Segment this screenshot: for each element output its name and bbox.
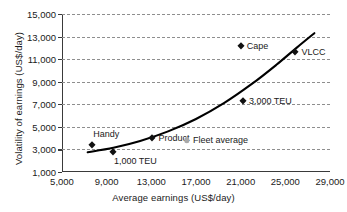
y-tick-mark (58, 82, 62, 83)
data-point-label: 1,000 TEU (114, 156, 157, 166)
y-tick-mark (58, 172, 62, 173)
y-tick-mark (58, 59, 62, 60)
data-point-label: Handy (93, 129, 119, 139)
y-tick-mark (58, 37, 62, 38)
y-tick-label: 13,000 (27, 31, 56, 42)
data-point-marker (237, 42, 244, 49)
y-tick-label: 3,000 (32, 144, 56, 155)
gridline (62, 149, 330, 150)
y-axis-line (62, 14, 63, 172)
y-tick-mark (58, 127, 62, 128)
x-axis-title: Average earnings (US$/day) (0, 192, 347, 203)
gridline (62, 82, 330, 83)
x-axis-line (62, 171, 330, 172)
data-point-label: VLCC (301, 47, 325, 57)
data-point-marker (292, 49, 299, 56)
plot-area: 1,0003,0005,0007,0009,00011,00013,00015,… (62, 14, 330, 172)
y-tick-mark (58, 14, 62, 15)
data-point-label: 3,000 TEU (249, 96, 292, 106)
x-tick-label: 13,000 (137, 176, 166, 187)
data-point-marker (88, 141, 95, 148)
y-tick-label: 11,000 (28, 54, 56, 65)
gridline (62, 59, 330, 60)
y-tick-label: 7,000 (32, 99, 56, 110)
trendline (62, 14, 330, 172)
y-tick-mark (58, 149, 62, 150)
x-tick-label: 25,000 (271, 176, 300, 187)
y-tick-label: 15,000 (27, 9, 56, 20)
trendline-path (88, 33, 315, 152)
chart-figure: Volatility of earnings (US$/day) Average… (0, 0, 347, 212)
data-point-label: Fleet average (193, 135, 248, 145)
gridline (62, 127, 330, 128)
y-axis-title: Volatility of earnings (US$/day) (13, 19, 24, 179)
data-point-marker (149, 134, 156, 141)
gridline (62, 37, 330, 38)
gridline (62, 14, 330, 15)
x-tick-label: 5,000 (50, 176, 74, 187)
y-tick-label: 5,000 (32, 121, 56, 132)
y-tick-mark (58, 104, 62, 105)
x-tick-label: 29,000 (315, 176, 344, 187)
y-tick-label: 9,000 (32, 76, 56, 87)
x-tick-label: 17,000 (181, 176, 210, 187)
x-tick-label: 9,000 (95, 176, 119, 187)
data-point-label: Cape (247, 41, 269, 51)
x-tick-label: 21,000 (226, 176, 255, 187)
